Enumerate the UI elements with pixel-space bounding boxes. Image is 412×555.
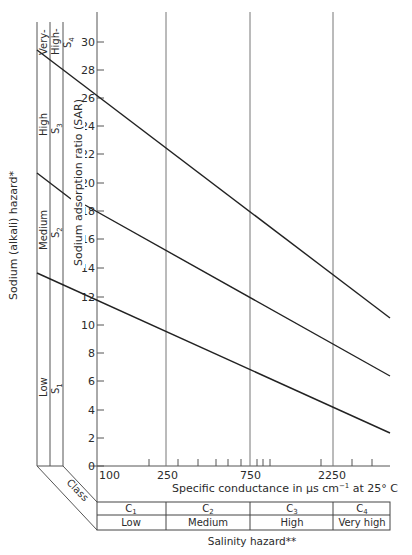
svg-text:C1: C1 — [125, 503, 136, 516]
svg-text:0: 0 — [88, 460, 95, 473]
label-s2: S2 — [50, 227, 64, 238]
salinity-class-names: Low Medium High Very high — [121, 517, 385, 528]
x-tick-labels: 100 250 750 2250 — [99, 469, 346, 482]
label-s-low: Low — [38, 377, 49, 397]
line-s2-s3-left — [37, 173, 71, 199]
label-very: Very- — [38, 29, 49, 55]
svg-text:C4: C4 — [356, 503, 368, 516]
sodium-class-labels: Very- High- S4 High S3 Medium S2 Low S1 — [38, 28, 76, 397]
svg-text:4: 4 — [88, 404, 95, 417]
svg-text:2: 2 — [88, 432, 95, 445]
svg-text:250: 250 — [157, 469, 178, 482]
svg-text:2250: 2250 — [318, 469, 346, 482]
line-s2-s3 — [85, 205, 390, 376]
svg-text:6: 6 — [88, 375, 95, 388]
svg-text:8: 8 — [88, 347, 95, 360]
label-high-dash: High- — [50, 28, 61, 55]
svg-text:C2: C2 — [202, 503, 213, 516]
svg-text:Sodium adsorption ratio (SAR): Sodium adsorption ratio (SAR) — [72, 99, 85, 266]
svg-text:100: 100 — [99, 469, 120, 482]
sodium-hazard-title: Sodium (alkali) hazard* — [7, 171, 20, 300]
label-s1: S1 — [50, 383, 64, 394]
label-s-high: High — [38, 113, 49, 136]
svg-text:Low: Low — [121, 517, 141, 528]
svg-text:30: 30 — [81, 36, 95, 49]
svg-text:28: 28 — [81, 64, 95, 77]
salinity-hazard-title: Salinity hazard** — [208, 535, 297, 547]
svg-text:Very high: Very high — [338, 517, 385, 528]
svg-text:10: 10 — [81, 319, 95, 332]
label-s-medium: Medium — [38, 210, 49, 250]
salinity-class-codes: C1 C2 C3 C4 — [125, 503, 368, 516]
y-axis-title: Sodium adsorption ratio (SAR) — [71, 99, 85, 268]
label-s4: S4 — [62, 37, 76, 48]
svg-text:12: 12 — [81, 291, 95, 304]
label-s3: S3 — [50, 123, 64, 134]
svg-text:750: 750 — [240, 469, 261, 482]
vertical-gridlines — [166, 12, 333, 466]
x-minor-ticks — [149, 459, 372, 466]
svg-text:Medium: Medium — [188, 517, 228, 528]
svg-text:C3: C3 — [286, 503, 297, 516]
x-axis-label: Specific conductance in µs cm−1 at 25° C — [172, 482, 398, 495]
svg-text:High: High — [281, 517, 304, 528]
sar-diagram: 0 2 4 6 8 10 12 14 16 18 20 22 24 26 28 … — [0, 0, 412, 555]
y-ticks — [97, 42, 104, 466]
